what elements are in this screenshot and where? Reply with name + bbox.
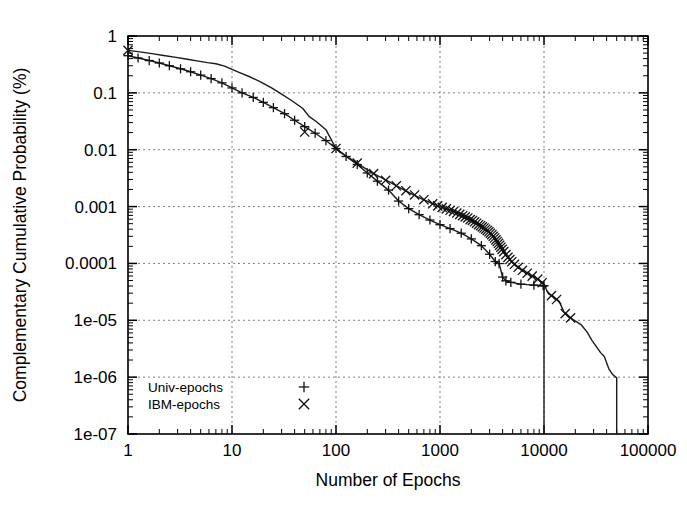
chart-figure: 110100100010000100000 10.10.010.0010.000… xyxy=(0,0,687,513)
y-axis-title: Complementary Cumulative Probability (%) xyxy=(10,68,30,403)
x-axis-title: Number of Epochs xyxy=(316,470,461,490)
x-tick-label: 1 xyxy=(123,441,132,460)
x-tick-label: 100 xyxy=(322,441,350,460)
x-tick-label: 1000 xyxy=(421,441,459,460)
y-tick-label: 1e-07 xyxy=(74,425,117,444)
y-tick-label: 1e-06 xyxy=(74,368,117,387)
y-tick-label: 0.001 xyxy=(74,198,117,217)
x-tick-label: 100000 xyxy=(620,441,677,460)
y-tick-label: 0.1 xyxy=(93,84,117,103)
y-tick-label: 0.0001 xyxy=(65,254,117,273)
x-tick-label: 10 xyxy=(223,441,242,460)
y-tick-label: 0.01 xyxy=(84,141,117,160)
y-tick-label: 1e-05 xyxy=(74,311,117,330)
legend-label-ibm-epochs: IBM-epochs xyxy=(148,397,220,412)
legend-label-univ-epochs: Univ-epochs xyxy=(148,380,223,395)
ccdf-log-log-plot: 110100100010000100000 10.10.010.0010.000… xyxy=(0,0,687,513)
y-tick-label: 1 xyxy=(108,27,117,46)
x-tick-label: 10000 xyxy=(520,441,567,460)
